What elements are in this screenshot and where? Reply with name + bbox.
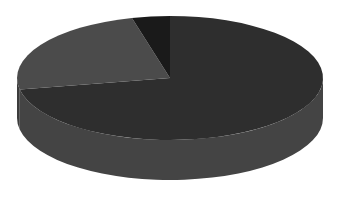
pie-chart-3d — [0, 0, 347, 209]
pie-chart-canvas — [0, 0, 347, 209]
